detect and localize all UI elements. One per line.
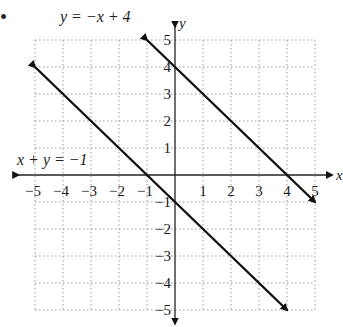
x-tick-label: −4 — [53, 183, 69, 199]
y-axis-label: y — [177, 15, 186, 31]
bullet-marker: • — [0, 6, 7, 28]
y-tick-label: −4 — [155, 275, 171, 291]
x-tick-label: 5 — [311, 183, 319, 199]
y-tick-label: 4 — [164, 59, 172, 75]
x-tick-label: −1 — [137, 183, 153, 199]
y-tick-label: −1 — [155, 194, 171, 210]
y-tick-label: 5 — [164, 32, 172, 48]
x-tick-label: 1 — [199, 183, 207, 199]
line-series — [35, 67, 287, 310]
y-tick-label: 3 — [164, 86, 172, 102]
x-tick-label: 4 — [283, 183, 291, 199]
x-tick-label: 3 — [255, 183, 263, 199]
y-tick-label: 1 — [164, 140, 172, 156]
y-tick-label: −3 — [155, 248, 171, 264]
y-tick-label: 2 — [164, 113, 172, 129]
x-tick-label: −2 — [109, 183, 125, 199]
y-tick-label: −5 — [155, 302, 171, 318]
labels: xy−5−4−3−2−11234554321−1−2−3−4−5y = −x +… — [0, 6, 343, 318]
axes — [18, 27, 332, 324]
x-axis-label: x — [335, 167, 343, 183]
y-tick-label: −2 — [155, 221, 171, 237]
x-tick-label: 2 — [227, 183, 235, 199]
annotation-label: y = −x + 4 — [58, 8, 131, 26]
x-tick-label: −5 — [25, 183, 41, 199]
x-tick-label: −3 — [81, 183, 97, 199]
annotation-label: x + y = −1 — [16, 151, 88, 169]
graph: xy−5−4−3−2−11234554321−1−2−3−4−5y = −x +… — [0, 0, 343, 327]
